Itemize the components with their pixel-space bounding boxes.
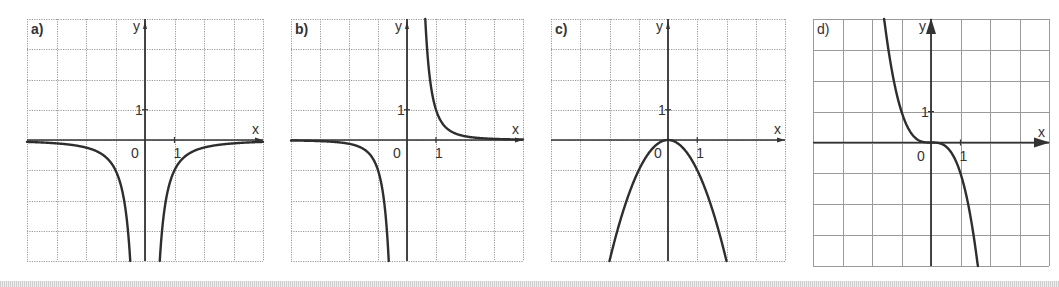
y-unit-label: 1: [397, 102, 405, 118]
x-axis-label: x: [1038, 124, 1045, 140]
y-unit-label: 1: [921, 104, 929, 120]
curve-branch: [425, 19, 523, 140]
origin-label: 0: [654, 145, 662, 161]
curve-branch: [291, 140, 389, 261]
x-axis-label: x: [774, 121, 781, 137]
y-axis-label: y: [656, 18, 663, 34]
graph-canvas: c)yx011: [551, 19, 785, 261]
x-unit-label: 1: [174, 145, 182, 161]
graph-canvas: d)yx011: [813, 19, 1049, 266]
y-axis-arrow-icon: [143, 21, 147, 29]
graph-panel-a: a)yx011: [27, 19, 263, 261]
axes: [291, 19, 523, 261]
x-axis-arrow-icon: [777, 138, 785, 143]
origin-label: 0: [131, 145, 139, 161]
y-unit-label: 1: [135, 102, 143, 118]
y-axis-label: y: [395, 18, 402, 34]
graph-canvas: b)yx011: [291, 19, 523, 261]
y-unit-label: 1: [658, 102, 666, 118]
graph-panel-c: c)yx011: [551, 19, 785, 261]
y-axis-label: y: [919, 18, 926, 34]
panel-label: a): [31, 21, 43, 37]
panel-label: c): [555, 21, 567, 37]
x-unit-label: 1: [960, 148, 968, 164]
graph-panel-b: b)yx011: [291, 19, 523, 261]
graph-panel-d: d)yx011: [813, 19, 1049, 266]
y-axis-arrow-icon: [926, 18, 936, 34]
y-axis-label: y: [133, 18, 140, 34]
y-axis-arrow-icon: [666, 21, 670, 29]
x-axis-label: x: [252, 121, 259, 137]
x-unit-label: 1: [435, 145, 443, 161]
origin-label: 0: [917, 148, 925, 164]
x-axis-label: x: [512, 121, 519, 137]
origin-label: 0: [393, 145, 401, 161]
x-unit-label: 1: [696, 145, 704, 161]
panel-label: d): [817, 21, 829, 37]
axes: [27, 19, 263, 261]
page-divider: [0, 281, 1059, 287]
y-axis-arrow-icon: [405, 21, 409, 29]
graph-canvas: a)yx011: [27, 19, 263, 261]
cropped-caption-fragment: [0, 0, 1059, 4]
panel-label: b): [295, 21, 308, 37]
